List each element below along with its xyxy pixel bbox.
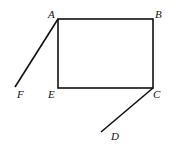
geometry-diagram: A B E C F D	[0, 0, 169, 149]
label-b: B	[155, 8, 162, 20]
label-e: E	[47, 88, 55, 100]
segment-cd	[101, 88, 153, 132]
segment-af	[15, 19, 58, 87]
label-c: C	[153, 88, 161, 100]
label-f: F	[16, 88, 24, 100]
label-d: D	[110, 130, 119, 142]
label-a: A	[47, 8, 55, 20]
rectangle-abce	[58, 19, 153, 88]
